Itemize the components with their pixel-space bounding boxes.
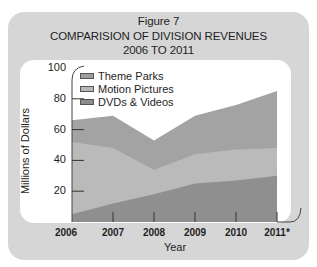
y-tick-label: 20 bbox=[36, 184, 66, 196]
x-tick-label: 2010 bbox=[216, 227, 256, 238]
y-tick-label: 60 bbox=[36, 123, 66, 135]
x-tick-label: 2006 bbox=[46, 227, 86, 238]
legend-item-dvds-videos: DVDs & Videos bbox=[80, 95, 174, 108]
legend-swatch-motion-pictures bbox=[80, 86, 94, 92]
legend-swatch-theme-parks bbox=[80, 73, 94, 79]
legend-label: DVDs & Videos bbox=[98, 96, 174, 108]
x-tick-label: 2009 bbox=[175, 227, 215, 238]
x-tick-label: 2011* bbox=[257, 227, 297, 238]
x-tick-label: 2008 bbox=[134, 227, 174, 238]
legend: Theme Parks Motion Pictures DVDs & Video… bbox=[80, 69, 174, 108]
legend-label: Theme Parks bbox=[98, 70, 163, 82]
legend-item-theme-parks: Theme Parks bbox=[80, 69, 174, 82]
y-tick-label: 40 bbox=[36, 153, 66, 165]
chart-layers bbox=[72, 91, 277, 222]
x-tick-label: 2007 bbox=[93, 227, 133, 238]
x-axis-label: Year bbox=[0, 241, 317, 253]
x-axis-curl bbox=[277, 208, 301, 222]
legend-item-motion-pictures: Motion Pictures bbox=[80, 82, 174, 95]
y-tick-label: 80 bbox=[36, 92, 66, 104]
y-tick-label: 100 bbox=[36, 61, 66, 73]
legend-swatch-dvds-videos bbox=[80, 99, 94, 105]
y-axis-label: Millions of Dollars bbox=[19, 96, 31, 206]
legend-label: Motion Pictures bbox=[98, 83, 174, 95]
